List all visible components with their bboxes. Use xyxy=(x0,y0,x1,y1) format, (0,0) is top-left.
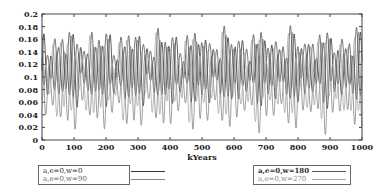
legend-swatch xyxy=(131,179,165,180)
x-tick-label: 700 xyxy=(258,142,275,152)
x-tick-label: 0 xyxy=(39,142,45,152)
y-tick-label: 0.16 xyxy=(19,34,39,44)
legend-label: a,e=0,w=270 xyxy=(258,175,306,183)
series-lines xyxy=(42,26,362,135)
y-tick-label: 0.18 xyxy=(19,22,39,32)
y-tick-label: 0.06 xyxy=(19,97,39,107)
chart: 00.020.040.060.080.10.120.140.160.180.2 … xyxy=(0,0,386,191)
legend-label: a,e=0,w=0 xyxy=(43,167,82,175)
y-tick-label: 0.04 xyxy=(19,110,39,120)
x-tick-label: 800 xyxy=(290,142,307,152)
x-tick-label: 100 xyxy=(66,142,83,152)
legend-label: a,e=0,w=90 xyxy=(43,175,87,183)
y-tick-label: 0.12 xyxy=(19,59,38,69)
y-tick-label: 0.1 xyxy=(24,72,38,82)
legend-swatch xyxy=(312,179,346,180)
x-tick-label: 1000 xyxy=(351,142,374,152)
legend-left: a,e=0,w=0 a,e=0,w=90 xyxy=(38,165,130,185)
y-tick-label: 0.02 xyxy=(19,122,38,132)
x-tick-label: 900 xyxy=(322,142,339,152)
legend-swatch xyxy=(131,171,165,172)
legend-swatch xyxy=(312,171,346,172)
y-tick-label: 0 xyxy=(32,135,38,145)
x-axis-label: kYears xyxy=(187,152,217,162)
x-tick-label: 500 xyxy=(194,142,211,152)
x-tick-label: 600 xyxy=(226,142,243,152)
legend-right: a,e=0,w=180 a,e=0,w=270 xyxy=(253,165,351,185)
x-tick-label: 200 xyxy=(98,142,115,152)
legend-label: a,e=0,w=180 xyxy=(258,167,309,175)
x-tick-label: 400 xyxy=(162,142,179,152)
x-tick-label: 300 xyxy=(130,142,147,152)
y-tick-label: 0.14 xyxy=(19,47,39,57)
y-tick-label: 0.2 xyxy=(24,9,38,19)
y-tick-label: 0.08 xyxy=(19,85,39,95)
